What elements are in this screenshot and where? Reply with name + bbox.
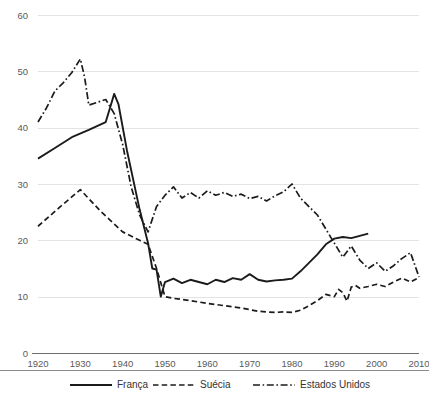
legend-item-estados-unidos[interactable]: Estados Unidos (253, 379, 370, 390)
x-tick-2000: 2000 (366, 358, 387, 369)
chart-legend: FrançaSuéciaEstados Unidos (0, 371, 429, 390)
x-tick-1980: 1980 (281, 358, 302, 369)
x-tick-1950: 1950 (154, 358, 175, 369)
y-tick-30: 30 (17, 179, 28, 190)
series-line-suécia (38, 190, 419, 313)
legend-label: Estados Unidos (300, 379, 370, 390)
x-tick-1990: 1990 (324, 358, 345, 369)
legend-item-suécia[interactable]: Suécia (153, 379, 231, 390)
legend-label: França (117, 379, 149, 390)
series-line-estados-unidos (38, 59, 419, 277)
y-tick-60: 60 (17, 10, 28, 21)
y-tick-50: 50 (17, 66, 28, 77)
y-axis-tick-labels: 0102030405060 (17, 10, 28, 359)
legend-label: Suécia (200, 379, 231, 390)
y-tick-0: 0 (23, 348, 28, 359)
x-axis-tick-labels: 1920193019401950196019701980199020002010 (27, 358, 429, 369)
legend-item-frança[interactable]: França (70, 379, 149, 390)
x-tick-1930: 1930 (70, 358, 91, 369)
x-tick-1920: 1920 (27, 358, 48, 369)
line-chart: 0102030405060 19201930194019501960197019… (0, 0, 429, 403)
x-tick-1940: 1940 (112, 358, 133, 369)
x-tick-1970: 1970 (239, 358, 260, 369)
y-tick-10: 10 (17, 291, 28, 302)
x-tick-1960: 1960 (197, 358, 218, 369)
y-tick-40: 40 (17, 122, 28, 133)
chart-canvas: 0102030405060 19201930194019501960197019… (0, 0, 429, 403)
x-tick-2010: 2010 (408, 358, 429, 369)
y-tick-20: 20 (17, 235, 28, 246)
series-lines (38, 59, 419, 313)
gridlines (38, 16, 419, 298)
